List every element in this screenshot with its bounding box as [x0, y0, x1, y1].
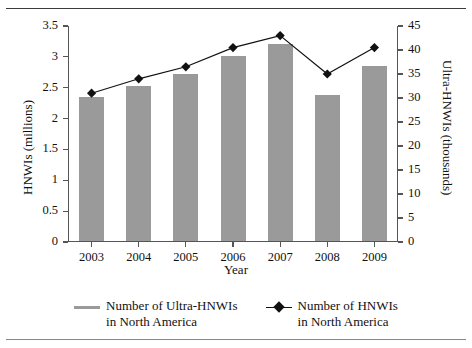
x-axis-tick-label: 2005: [160, 250, 212, 265]
x-axis-tick-label: 2004: [113, 250, 165, 265]
y-axis-right-tick: [398, 193, 403, 194]
y-axis-right-tick: [398, 25, 403, 26]
y-axis-right-tick-label: 25: [408, 115, 448, 128]
x-axis-tick: [374, 242, 375, 247]
diamond-marker-icon: [370, 43, 379, 52]
y-axis-right-tick-label: 45: [408, 19, 448, 32]
y-axis-left-tick-label: 2.5: [18, 81, 58, 94]
y-axis-left-tick-label: 3.5: [18, 19, 58, 32]
chart-figure: HNWIs (millions) Ultra-HNWIs (thousands)…: [0, 0, 472, 348]
x-axis-tick: [327, 242, 328, 247]
y-axis-right-tick-label: 40: [408, 43, 448, 56]
y-axis-right-tick: [398, 217, 403, 218]
legend-label-hnwis: Number of HNWIs in North America: [298, 298, 398, 330]
y-axis-left-tick-label: 1.5: [18, 142, 58, 155]
legend-label-ultra-hnwis: Number of Ultra-HNWIs in North America: [106, 298, 237, 330]
x-axis-tick-label: 2007: [254, 250, 306, 265]
top-rule: [6, 8, 466, 9]
diamond-marker-icon: [87, 89, 96, 98]
y-axis-right-tick-label: 20: [408, 139, 448, 152]
chart-legend: Number of Ultra-HNWIs in North America N…: [0, 298, 472, 330]
y-axis-left-tick-label: 2: [18, 112, 58, 125]
y-axis-right-tick-label: 5: [408, 211, 448, 224]
legend-item-hnwis: Number of HNWIs in North America: [266, 298, 398, 330]
diamond-marker-icon: [228, 43, 237, 52]
y-axis-right-tick: [398, 97, 403, 98]
y-axis-right-tick: [398, 121, 403, 122]
x-axis-tick: [185, 242, 186, 247]
diamond-marker-icon: [134, 74, 143, 83]
bottom-rule: [6, 339, 466, 340]
x-axis-tick-label: 2009: [348, 250, 400, 265]
y-axis-right-tick-label: 0: [408, 235, 448, 248]
y-axis-right-tick-label: 35: [408, 67, 448, 80]
y-axis-left-tick-label: 0.5: [18, 204, 58, 217]
diamond-marker-icon: [181, 62, 190, 71]
y-axis-left-tick-label: 0: [18, 235, 58, 248]
x-axis-tick-label: 2003: [66, 250, 118, 265]
gray-bar-swatch-icon: [74, 300, 100, 314]
y-axis-right-tick: [398, 169, 403, 170]
x-axis-tick: [138, 242, 139, 247]
y-axis-left-tick-label: 3: [18, 50, 58, 63]
plot-area: 00.511.522.533.5 051015202530354045 2003…: [68, 26, 398, 242]
y-axis-left-tick-label: 1: [18, 173, 58, 186]
x-axis-tick: [280, 242, 281, 247]
diamond-line-swatch-icon: [266, 300, 292, 314]
line-series: [68, 26, 398, 242]
y-axis-right-tick: [398, 145, 403, 146]
y-axis-right-tick: [398, 49, 403, 50]
x-axis-tick: [232, 242, 233, 247]
y-axis-right-tick-label: 10: [408, 187, 448, 200]
y-axis-right-tick-label: 15: [408, 163, 448, 176]
x-axis-tick: [91, 242, 92, 247]
x-axis-tick-label: 2008: [301, 250, 353, 265]
legend-item-ultra-hnwis: Number of Ultra-HNWIs in North America: [74, 298, 237, 330]
y-axis-right-tick-label: 30: [408, 91, 448, 104]
y-axis-right-tick: [398, 241, 403, 242]
y-axis-right-tick: [398, 73, 403, 74]
x-axis-tick-label: 2006: [207, 250, 259, 265]
